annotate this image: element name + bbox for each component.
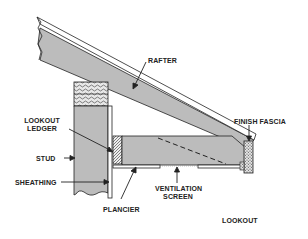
finish-fascia-label: FINISH FASCIA	[234, 118, 286, 126]
ventilation-screen-label-line1: VENTILATION	[155, 185, 201, 193]
rafter-label: RAFTER	[148, 57, 177, 65]
lookout	[122, 136, 246, 165]
plancier-label: PLANCIER	[103, 206, 140, 214]
ventilation-screen-label-line2: SCREEN	[155, 193, 201, 201]
lookout-ledger	[113, 136, 122, 164]
lookout-ledger-label-line2: LEDGER	[22, 125, 62, 133]
lookout-ledger-label-line1: LOOKOUT	[22, 117, 62, 125]
stud-label: STUD	[36, 155, 55, 163]
plancier	[113, 165, 246, 168]
top-plate	[74, 82, 108, 106]
lookout-caption: LOOKOUT	[222, 217, 258, 225]
rafter	[37, 17, 256, 148]
sheathing-label: SHEATHING	[15, 179, 57, 187]
